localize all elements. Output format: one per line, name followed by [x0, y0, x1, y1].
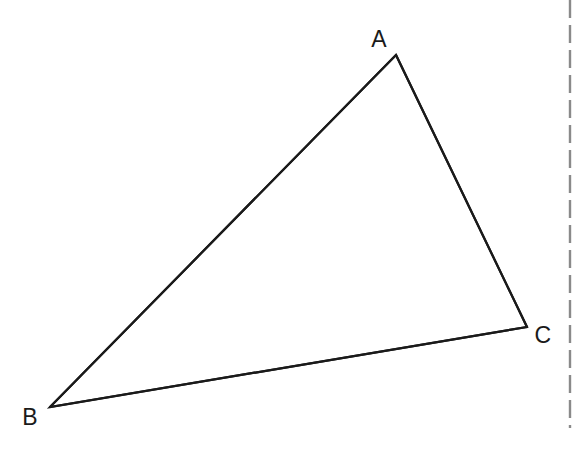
triangle-edge-ca [396, 55, 527, 327]
triangle-figure [0, 0, 585, 458]
vertex-label-b: B [22, 406, 38, 429]
vertex-label-a: A [371, 28, 387, 51]
triangle-abc-outline [50, 55, 527, 407]
vertex-label-c: C [535, 324, 552, 347]
triangle-edge-ab [50, 55, 396, 407]
triangle-edge-bc [50, 327, 527, 407]
diagram-canvas: A B C [0, 0, 585, 458]
